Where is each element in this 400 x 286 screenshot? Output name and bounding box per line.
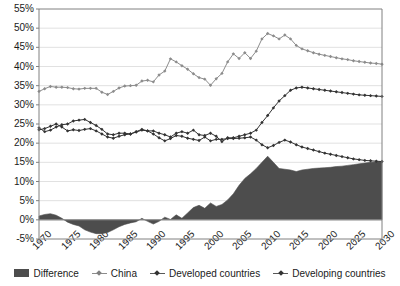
data-point-marker: [369, 94, 372, 97]
data-point-marker: [363, 94, 366, 97]
data-point-marker: [146, 79, 149, 82]
legend-item-developed-countries[interactable]: Developed countries: [150, 268, 260, 279]
data-point-marker: [312, 148, 315, 151]
legend-label: Developed countries: [169, 268, 260, 279]
data-point-marker: [117, 132, 120, 135]
data-point-marker: [357, 93, 360, 96]
data-point-marker: [335, 90, 338, 93]
data-point-marker: [49, 125, 52, 128]
data-point-marker: [77, 87, 80, 90]
data-point-marker: [352, 59, 355, 62]
data-point-marker: [335, 56, 338, 59]
data-point-marker: [346, 156, 349, 159]
data-point-marker: [295, 86, 298, 89]
data-point-marker: [329, 89, 332, 92]
data-point-marker: [323, 54, 326, 57]
data-point-marker: [83, 128, 86, 131]
data-point-marker: [49, 85, 52, 88]
data-point-marker: [300, 145, 303, 148]
data-point-marker: [317, 150, 320, 153]
legend-label: Difference: [33, 268, 78, 279]
data-point-marker: [352, 157, 355, 160]
data-point-marker: [329, 153, 332, 156]
data-point-marker: [163, 133, 166, 136]
data-point-marker: [215, 138, 218, 141]
data-point-marker: [83, 87, 86, 90]
data-point-marker: [317, 53, 320, 56]
data-point-marker: [352, 92, 355, 95]
legend-item-developing-countries[interactable]: Developing countries: [273, 268, 385, 279]
data-point-marker: [192, 138, 195, 141]
data-point-marker: [243, 133, 246, 136]
line-swatch-icon: [150, 269, 165, 277]
area-swatch-icon: [14, 269, 29, 277]
chart-legend: Difference China Developed countries Dev…: [0, 263, 400, 283]
data-point-marker: [375, 62, 378, 65]
data-point-marker: [329, 55, 332, 58]
data-point-marker: [317, 88, 320, 91]
data-point-marker: [335, 154, 338, 157]
data-point-marker: [112, 136, 115, 139]
data-point-marker: [363, 159, 366, 162]
data-point-marker: [340, 91, 343, 94]
chart-container: 55%50%45%40%35%30%25%20%15%10%5%0%-5% 19…: [0, 0, 400, 286]
data-point-marker: [340, 155, 343, 158]
data-point-marker: [306, 86, 309, 89]
data-point-marker: [369, 61, 372, 64]
data-point-marker: [180, 130, 183, 133]
data-point-marker: [363, 61, 366, 64]
data-point-marker: [306, 147, 309, 150]
data-point-marker: [77, 129, 80, 132]
data-point-marker: [152, 129, 155, 132]
area-series-difference: [39, 156, 382, 233]
data-point-marker: [346, 58, 349, 61]
data-point-marker: [129, 132, 132, 135]
data-point-marker: [66, 86, 69, 89]
legend-item-china[interactable]: China: [92, 268, 137, 279]
data-point-marker: [346, 92, 349, 95]
data-point-marker: [283, 138, 286, 141]
legend-item-difference[interactable]: Difference: [14, 268, 78, 279]
legend-label: China: [111, 268, 137, 279]
data-point-marker: [117, 135, 120, 138]
line-swatch-icon: [273, 269, 288, 277]
data-point-marker: [186, 136, 189, 139]
data-point-marker: [180, 135, 183, 138]
legend-label: Developing countries: [292, 268, 385, 279]
data-point-marker: [72, 128, 75, 131]
data-point-marker: [89, 127, 92, 130]
data-point-marker: [323, 151, 326, 154]
data-point-marker: [72, 87, 75, 90]
data-point-marker: [323, 89, 326, 92]
data-point-marker: [357, 158, 360, 161]
data-point-marker: [89, 87, 92, 90]
data-point-marker: [43, 87, 46, 90]
data-point-marker: [312, 87, 315, 90]
data-point-marker: [375, 94, 378, 97]
data-point-marker: [123, 84, 126, 87]
data-point-marker: [43, 127, 46, 130]
data-point-marker: [112, 133, 115, 136]
data-point-marker: [129, 84, 132, 87]
data-point-marker: [357, 60, 360, 63]
chart-plot-area: [0, 0, 400, 286]
data-point-marker: [157, 132, 160, 135]
data-point-marker: [306, 49, 309, 52]
line-swatch-icon: [92, 269, 107, 277]
data-point-marker: [340, 57, 343, 60]
data-point-marker: [312, 51, 315, 54]
data-point-marker: [77, 118, 80, 121]
data-point-marker: [243, 136, 246, 139]
